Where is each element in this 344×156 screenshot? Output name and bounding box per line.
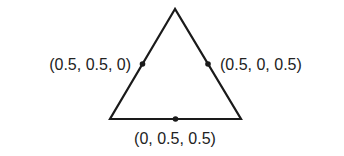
left-midpoint-label: (0.5, 0.5, 0) (49, 56, 131, 73)
bottom-edge-midpoint-dot (173, 116, 179, 122)
right-edge-midpoint-dot (205, 61, 211, 67)
bottom-midpoint-label: (0, 0.5, 0.5) (134, 130, 216, 147)
simplex-diagram: (0.5, 0.5, 0) (0.5, 0, 0.5) (0, 0.5, 0.5… (0, 0, 344, 156)
right-midpoint-label: (0.5, 0, 0.5) (220, 56, 302, 73)
left-edge-midpoint-dot (140, 61, 146, 67)
